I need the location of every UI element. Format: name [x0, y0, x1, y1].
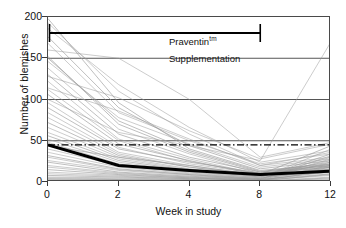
x-tick-mark: [330, 181, 331, 186]
annotation-praventin: Praventintm: [169, 35, 217, 47]
y-tick-label: 50: [16, 135, 42, 145]
y-tick-mark: [42, 57, 47, 58]
plot-area: Praventintm Supplementation: [47, 16, 330, 181]
x-tick-mark: [259, 181, 260, 186]
trademark-superscript: tm: [209, 35, 217, 42]
x-tick-label: 12: [315, 188, 345, 200]
y-tick-mark: [42, 99, 47, 100]
x-tick-mark: [189, 181, 190, 186]
x-tick-label: 4: [174, 188, 204, 200]
y-tick-label: 100: [16, 94, 42, 104]
x-axis-title: Week in study: [47, 205, 330, 217]
x-tick-mark: [47, 181, 48, 186]
x-tick-label: 8: [244, 188, 274, 200]
x-tick-mark: [118, 181, 119, 186]
blemish-count-line-chart: Number of blemishes 200150100500 Pravent…: [0, 0, 346, 228]
x-tick-label: 2: [103, 188, 133, 200]
y-tick-label: 0: [16, 176, 42, 186]
x-tick-label: 0: [32, 188, 62, 200]
y-tick-mark: [42, 16, 47, 17]
praventin-text: Praventin: [169, 36, 209, 47]
y-tick-mark: [42, 140, 47, 141]
y-tick-label: 150: [16, 52, 42, 62]
annotation-supplementation: Supplementation: [169, 53, 240, 64]
y-tick-label: 200: [16, 11, 42, 21]
supplementation-period-bar: [50, 24, 261, 42]
